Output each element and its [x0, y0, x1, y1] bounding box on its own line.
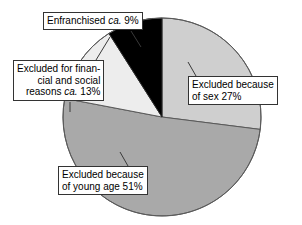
label-young-age-line2: of young age 51% — [62, 181, 144, 193]
label-enfranchised-text-italic: ca. — [108, 15, 121, 26]
label-excluded-sex[interactable]: Excluded because of sex 27% — [188, 76, 278, 105]
label-enfranchised[interactable]: Enfranchised ca. 9% — [43, 12, 143, 30]
label-enfranchised-text-pre: Enfranchised — [47, 15, 108, 26]
label-financial-line3-italic: ca. — [64, 86, 77, 97]
label-excluded-financial-social[interactable]: Excluded for finan- cial and social reas… — [13, 60, 104, 101]
label-financial-line1: Excluded for finan- — [17, 63, 100, 75]
label-financial-line3-post: 13% — [78, 86, 101, 97]
pie-slice-excluded-sex[interactable] — [162, 18, 261, 129]
label-young-age-line1: Excluded because — [62, 169, 144, 181]
pie-chart-figure: Enfranchised ca. 9% Excluded for finan- … — [0, 0, 302, 225]
label-financial-line2: cial and social — [17, 75, 100, 87]
label-enfranchised-text-post: 9% — [122, 15, 139, 26]
label-excluded-young-age[interactable]: Excluded because of young age 51% — [58, 166, 148, 195]
label-financial-line3-pre: reasons — [26, 86, 64, 97]
label-financial-line3: reasons ca. 13% — [17, 86, 100, 98]
label-sex-line1: Excluded because — [192, 79, 274, 91]
label-sex-line2: of sex 27% — [192, 91, 274, 103]
pie-chart-svg — [0, 0, 302, 225]
